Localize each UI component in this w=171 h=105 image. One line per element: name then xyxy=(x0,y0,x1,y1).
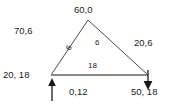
label-apex-value: 60,0 xyxy=(74,5,93,15)
label-lower-left-value: 20, 18 xyxy=(3,70,29,80)
label-bottom-right-value: 50, 18 xyxy=(131,87,157,97)
label-right-value: 20,6 xyxy=(134,38,153,48)
support-arrow-left-icon xyxy=(48,78,56,101)
label-base-edge-length: 18 xyxy=(88,62,97,70)
label-bottom-center-value: 0,12 xyxy=(69,87,88,97)
label-upper-left-value: 70,6 xyxy=(14,26,33,36)
label-interior-length: 6 xyxy=(95,39,99,47)
diagram-canvas: 60,0 70,6 20,6 20, 18 0,12 50, 18 6 6 18 xyxy=(0,0,171,105)
